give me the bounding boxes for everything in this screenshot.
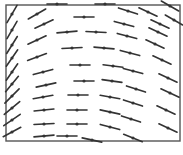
segment-center-dot xyxy=(35,12,38,15)
segment-center-dot xyxy=(65,134,68,137)
segment-center-dot xyxy=(94,30,97,33)
segment-center-dot xyxy=(156,30,159,33)
segment-center-dot xyxy=(10,106,13,109)
segment-center-dot xyxy=(70,46,73,49)
segment-center-dot xyxy=(10,56,13,59)
segment-center-dot xyxy=(103,2,106,5)
segment-center-dot xyxy=(108,110,111,113)
segment-center-dot xyxy=(108,125,111,128)
segment-center-dot xyxy=(41,70,44,73)
segment-center-dot xyxy=(10,43,13,46)
segment-center-dot xyxy=(82,15,85,18)
segment-center-dot xyxy=(153,42,156,45)
segment-center-dot xyxy=(10,130,13,133)
segment-center-dot xyxy=(10,82,13,85)
segment-center-dot xyxy=(134,87,137,90)
segment-center-dot xyxy=(168,91,171,94)
segment-center-dot xyxy=(90,138,93,141)
segment-center-dot xyxy=(35,55,38,58)
segment-center-dot xyxy=(82,79,85,82)
segment-center-dot xyxy=(65,30,68,33)
segment-center-dot xyxy=(168,4,171,7)
segment-center-dot xyxy=(108,95,111,98)
segment-center-dot xyxy=(42,122,45,125)
segment-center-dot xyxy=(160,58,163,61)
segment-center-dot xyxy=(128,51,131,54)
segment-center-dot xyxy=(111,64,114,67)
segment-center-dot xyxy=(42,108,45,111)
segment-center-dot xyxy=(158,22,161,25)
segment-center-dot xyxy=(125,34,128,37)
segment-center-dot xyxy=(131,101,134,104)
segment-center-dot xyxy=(78,63,81,66)
segment-center-dot xyxy=(41,95,44,98)
segment-center-dot xyxy=(102,46,105,49)
segment-center-dot xyxy=(126,9,129,12)
segment-center-dot xyxy=(146,10,149,13)
segment-center-dot xyxy=(166,126,169,129)
segment-center-dot xyxy=(131,69,134,72)
segment-center-dot xyxy=(44,83,47,86)
segment-center-dot xyxy=(42,134,45,137)
plot-frame xyxy=(6,5,180,141)
segment-center-dot xyxy=(35,38,38,41)
segment-center-dot xyxy=(42,22,45,25)
segment-center-dot xyxy=(10,28,13,31)
segment-center-dot xyxy=(110,79,113,82)
segment-center-dot xyxy=(10,94,13,97)
segment-center-dot xyxy=(10,12,13,15)
segment-center-dot xyxy=(75,122,78,125)
segment-center-dot xyxy=(10,70,13,73)
segment-center-dot xyxy=(10,118,13,121)
segment-center-dot xyxy=(122,22,125,25)
segment-center-dot xyxy=(164,108,167,111)
segment-center-dot xyxy=(172,18,175,21)
segment-center-dot xyxy=(129,117,132,120)
segment-center-dot xyxy=(131,136,134,139)
slope-segments xyxy=(3,1,183,142)
slope-field-diagram xyxy=(0,0,183,155)
segment-center-dot xyxy=(166,76,169,79)
segment-center-dot xyxy=(75,108,78,111)
segment-center-dot xyxy=(76,93,79,96)
segment-center-dot xyxy=(55,2,58,5)
